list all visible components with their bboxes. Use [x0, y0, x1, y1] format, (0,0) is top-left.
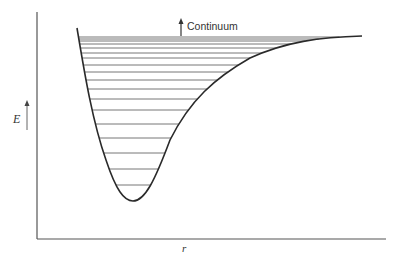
diagram-canvas — [0, 0, 394, 259]
x-axis-label: r — [182, 242, 186, 254]
continuum-arrowhead-icon — [179, 18, 184, 24]
continuum-label: Continuum — [187, 20, 238, 32]
energy-levels — [78, 37, 339, 185]
energy-arrowhead-icon — [25, 100, 30, 106]
potential-curve — [77, 28, 362, 201]
y-axis-label: E — [13, 112, 20, 127]
